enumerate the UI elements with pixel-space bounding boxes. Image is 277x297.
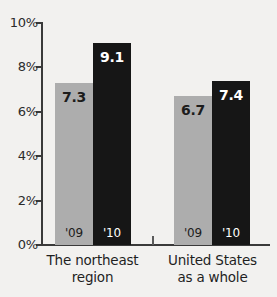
y-axis-tick-label: 8% [0,60,38,73]
bar-value-label: 7.3 [55,90,93,104]
y-axis-tick-label: 4% [0,149,38,162]
category-label-line-1: United States [168,252,257,268]
category-label-united-states: United States as a whole [155,252,270,286]
bar-value-label: 6.7 [174,103,212,117]
bar-chart: 0%2%4%6%8%10% 7.3'099.1'106.7'097.4'10 T… [0,0,277,297]
y-axis-tick-label: 6% [0,105,38,118]
bar-09-group-1: 6.7'09 [174,96,212,245]
category-label-line-2: region [35,269,150,286]
bar-year-label: '09 [174,227,212,239]
bar-10-group-0: 9.1'10 [93,43,131,245]
y-axis-tick-label: 0% [0,238,38,251]
category-label-line-1: The northeast [47,252,139,268]
bar-09-group-0: 7.3'09 [55,83,93,245]
bar-10-group-1: 7.4'10 [212,81,250,245]
bar-year-label: '10 [212,227,250,239]
group-separator-tick [152,236,154,245]
bar-value-label: 9.1 [93,50,131,64]
y-axis-line [41,22,43,246]
bar-year-label: '10 [93,227,131,239]
bar-year-label: '09 [55,227,93,239]
y-axis-tick-label: 2% [0,194,38,207]
category-label-line-2: as a whole [155,269,270,286]
category-label-northeast: The northeast region [35,252,150,286]
y-axis-tick-label: 10% [0,16,38,29]
bar-value-label: 7.4 [212,88,250,102]
